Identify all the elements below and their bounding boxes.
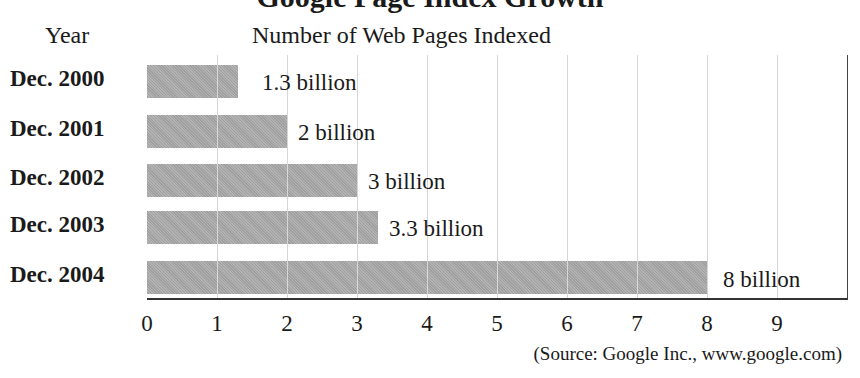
x-tick-label: 4 (412, 311, 442, 337)
bar (147, 211, 378, 244)
bar-gridline (287, 164, 288, 197)
x-tick-label: 6 (552, 311, 582, 337)
source-note: (Source: Google Inc., www.google.com) (534, 343, 843, 365)
bar (147, 115, 287, 148)
bar-gridline (497, 261, 498, 294)
bar-gridline (217, 65, 218, 98)
x-tick-label: 3 (342, 311, 372, 337)
bar-gridline (287, 211, 288, 244)
bar-value-label: 3.3 billion (389, 216, 484, 242)
x-axis-header: Number of Web Pages Indexed (252, 22, 551, 49)
y-category-label: Dec. 2002 (10, 165, 105, 191)
y-category-label: Dec. 2001 (10, 116, 105, 142)
bar-gridline (217, 211, 218, 244)
gridline (707, 55, 708, 298)
bar-value-label: 8 billion (723, 267, 800, 293)
bar-gridline (357, 211, 358, 244)
y-axis-header: Year (45, 22, 89, 49)
y-category-label: Dec. 2004 (10, 262, 105, 288)
x-tick-label: 2 (272, 311, 302, 337)
chart-title-cropped: Google Page Index Growth (0, 0, 860, 14)
x-tick-label: 0 (132, 311, 162, 337)
bar-value-label: 1.3 billion (262, 70, 357, 96)
plot-area (147, 55, 848, 300)
x-tick-label: 5 (482, 311, 512, 337)
bar (147, 65, 238, 98)
bar-gridline (637, 261, 638, 294)
bar-gridline (217, 261, 218, 294)
x-tick-label: 7 (622, 311, 652, 337)
bar (147, 261, 707, 294)
gridline (777, 55, 778, 298)
y-category-label: Dec. 2003 (10, 212, 105, 238)
x-tick-label: 9 (762, 311, 792, 337)
bar-gridline (427, 261, 428, 294)
bar-value-label: 2 billion (298, 120, 375, 146)
bar-gridline (287, 261, 288, 294)
bar-gridline (357, 261, 358, 294)
y-category-label: Dec. 2000 (10, 66, 105, 92)
bar-value-label: 3 billion (368, 169, 445, 195)
bar-gridline (217, 164, 218, 197)
bar-gridline (217, 115, 218, 148)
x-tick-label: 1 (202, 311, 232, 337)
bar-gridline (567, 261, 568, 294)
bar (147, 164, 357, 197)
x-tick-label: 8 (692, 311, 722, 337)
